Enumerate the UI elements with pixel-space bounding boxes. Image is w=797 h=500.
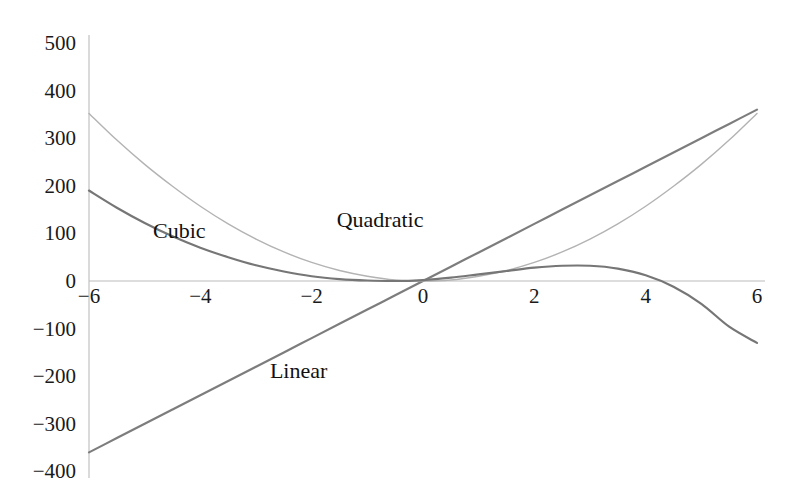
axis-lines: [89, 35, 765, 478]
y-tick-label: −100: [14, 319, 76, 340]
y-tick-label: 400: [14, 81, 76, 102]
x-tick-label: −6: [69, 286, 109, 307]
series-label-quadratic: Quadratic: [337, 209, 424, 231]
x-tick-label: 0: [403, 286, 443, 307]
x-tick-label: −4: [180, 286, 220, 307]
y-tick-label: −400: [14, 461, 76, 482]
series-label-cubic: Cubic: [153, 220, 206, 242]
y-tick-label: 0: [14, 271, 76, 292]
x-tick-label: 2: [514, 286, 554, 307]
y-tick-label: 300: [14, 128, 76, 149]
y-tick-label: 500: [14, 33, 76, 54]
plot-canvas: [0, 0, 797, 500]
y-tick-label: 100: [14, 223, 76, 244]
y-tick-label: −300: [14, 414, 76, 435]
x-tick-label: 4: [626, 286, 666, 307]
x-tick-label: 6: [737, 286, 777, 307]
y-tick-label: 200: [14, 176, 76, 197]
series-label-linear: Linear: [270, 360, 327, 382]
y-tick-label: −200: [14, 366, 76, 387]
chart-figure: 5004003002001000−100−200−300−400 −6−4−20…: [0, 0, 797, 500]
series-line-quadratic: [89, 113, 757, 281]
x-tick-label: −2: [292, 286, 332, 307]
